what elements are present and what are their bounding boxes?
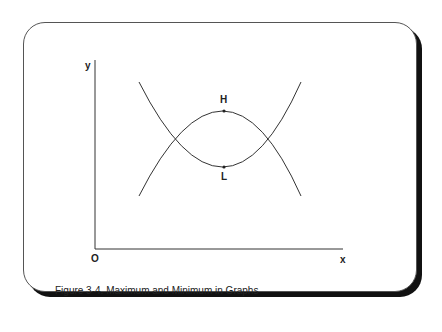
- min-point: [222, 165, 225, 168]
- graph: [0, 0, 442, 332]
- max-point: [222, 109, 225, 112]
- max-label: H: [220, 94, 227, 105]
- figure-caption: Figure 3-4. Maximum and Minimum in Graph…: [55, 285, 258, 296]
- y-axis-label: y: [85, 60, 91, 71]
- origin-label: O: [91, 253, 99, 264]
- min-label: L: [221, 171, 227, 182]
- x-axis-label: x: [340, 254, 346, 265]
